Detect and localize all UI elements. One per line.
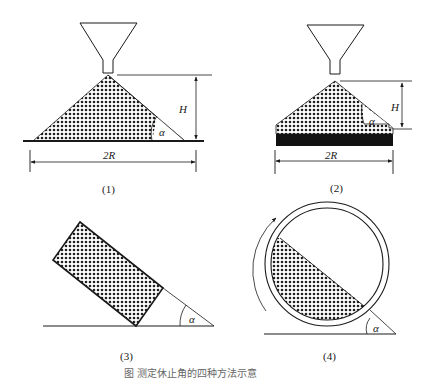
height-label: H (390, 101, 400, 113)
panel-3: α (3) (43, 222, 214, 363)
panel-label: (1) (102, 183, 115, 196)
powder-fill (260, 238, 370, 330)
width-label: 2R (103, 149, 116, 161)
angle-label: α (373, 322, 379, 334)
funnel-icon (307, 25, 364, 74)
width-label: 2R (325, 149, 338, 161)
panel-label: (2) (330, 182, 343, 195)
panel-label: (4) (323, 350, 336, 363)
tilted-box (53, 222, 163, 326)
funnel-icon (80, 23, 137, 73)
panel-1: α H 2R (1) (23, 23, 212, 196)
angle-label: α (369, 115, 375, 127)
figure-caption: 图 测定休止角的四种方法示意 (124, 367, 257, 379)
panel-label: (3) (120, 350, 133, 363)
panel-2: α H 2R (2) (275, 25, 412, 195)
angle-label: α (189, 313, 195, 325)
panel-4: α (4) (253, 202, 396, 363)
angle-label: α (159, 126, 165, 138)
base-block (276, 134, 393, 146)
figure-canvas: α H 2R (1) α H 2R (2) α (3) (0, 0, 432, 381)
powder-pile (276, 81, 393, 134)
height-label: H (178, 103, 188, 115)
